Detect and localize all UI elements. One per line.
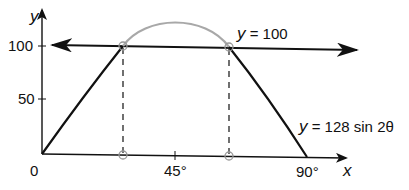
y-tick-100-label: 100 (8, 37, 33, 54)
curve-left-segment (42, 46, 123, 154)
line-y-100 (52, 45, 357, 50)
line-equation-rest: = 100 (246, 25, 288, 42)
axes (38, 10, 346, 160)
y-axis-label: y (29, 7, 40, 26)
line-equation-label: y = 100 (236, 24, 288, 43)
curve-equation-rest: = 128 sin 2θ (308, 118, 394, 135)
curve-equation-label: y = 128 sin 2θ (298, 117, 394, 136)
x-tick-45-label: 45° (164, 162, 187, 179)
curve-right-segment (229, 47, 307, 157)
origin-label: 0 (30, 162, 38, 179)
curve-arc-above-line (123, 23, 229, 48)
diagram: y x 0 50 100 45° 90° y = 100 y = 128 sin… (0, 0, 409, 190)
y-tick-50-label: 50 (18, 90, 35, 107)
x-tick-90-label: 90° (296, 163, 319, 180)
x-axis (42, 154, 346, 158)
x-axis-label: x (342, 161, 352, 180)
